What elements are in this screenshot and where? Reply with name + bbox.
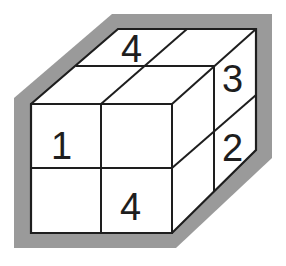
cube-diagram: 4 3 1 2 4	[0, 0, 286, 266]
label-front-4: 4	[120, 186, 141, 228]
label-right-2: 2	[222, 127, 243, 169]
label-right-3: 3	[222, 58, 243, 100]
label-front-1: 1	[51, 125, 72, 167]
label-top-4: 4	[121, 28, 142, 70]
